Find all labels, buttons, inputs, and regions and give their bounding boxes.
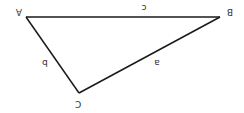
vertex-labels: A B C <box>15 7 233 109</box>
vertex-b-label: B <box>227 7 233 17</box>
vertex-c-label: C <box>75 99 81 109</box>
triangle-edges <box>26 17 220 93</box>
side-b <box>26 17 79 93</box>
side-a <box>79 17 220 93</box>
vertex-a-label: A <box>15 7 22 17</box>
side-labels: c b a <box>42 3 160 68</box>
side-a-label: a <box>154 58 160 68</box>
triangle-diagram: A B C c b a <box>0 0 244 113</box>
side-c-label: c <box>141 3 146 13</box>
side-b-label: b <box>42 58 48 68</box>
